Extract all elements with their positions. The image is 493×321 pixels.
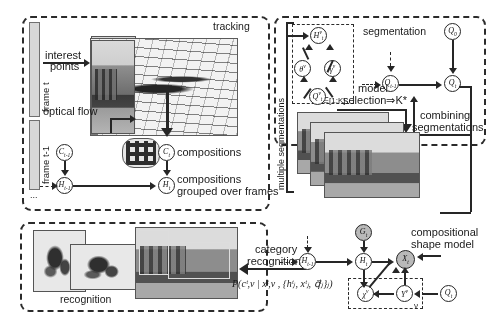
- combining-feedback-head: [410, 96, 418, 102]
- segmentation-to-recognition-v: [470, 134, 472, 212]
- node-G-t: Gt: [355, 224, 372, 241]
- edge-Qtop-Qt: [452, 40, 454, 69]
- edge-gamma-H-head: [326, 44, 334, 50]
- edge-Hprev-Ht-head: [150, 182, 156, 190]
- edge-theta-H-head: [305, 44, 313, 50]
- optical-flow-arrowhead: [130, 115, 136, 123]
- category-recognition-arrow: [248, 268, 306, 270]
- model-selection-line2: selection⇒K*: [343, 95, 407, 107]
- frame-tm1-label: frame t-1: [40, 146, 51, 184]
- combining-line2: segmentations: [412, 122, 484, 134]
- node-C-prev: Ct-1: [56, 144, 73, 161]
- node-theta-nu: θν: [294, 60, 311, 77]
- segmentation-image-1: [324, 132, 420, 198]
- edge-chi-Xt-head: [392, 267, 400, 273]
- recognition-formula: P(cᵗ,ν | xᵗ,ν , {hᵗⱼ, xᵗⱼ, q⃗ᵗⱼ}ⱼ): [232, 278, 333, 290]
- node-H-t-recognition: Ht: [355, 253, 372, 270]
- flow-to-compositions-line: [166, 90, 169, 132]
- module-recognition-label: recognition: [60, 293, 111, 305]
- edge-dots-into-Qprev-v: [390, 52, 391, 66]
- shape-model-line1: compositional: [411, 227, 478, 239]
- combining-feedback-right-v: [470, 86, 472, 134]
- module-segmentation-label: segmentation: [363, 25, 426, 37]
- interest-points-arrow: [43, 62, 85, 64]
- edge-tracking-to-segmentation: [286, 35, 304, 37]
- edge-Qprev-Qt-head: [436, 81, 442, 89]
- edge-Qtop-Qt-head: [449, 68, 457, 74]
- composition-patches: [122, 138, 160, 168]
- node-H-prev: Ht-1: [56, 177, 73, 194]
- recognition-bbox-2: [168, 242, 230, 279]
- plate-nu-recognition-index: ν: [414, 300, 418, 312]
- figure-canvas: tracking frame t frame t-1 ... interest …: [0, 0, 493, 321]
- node-Q-t-seg: Qt: [444, 75, 461, 92]
- edge-Cprev-Hprev-head: [61, 170, 69, 176]
- frame-tm1-bar: [29, 120, 40, 190]
- compositions-label: compositions: [177, 147, 241, 159]
- model-selection-line1: model: [358, 83, 388, 95]
- combining-line1: combining: [420, 110, 470, 122]
- frame-t-bar: [29, 22, 40, 117]
- edge-Hprev-Ht-rec-head: [347, 258, 353, 266]
- edge-Hprev-Ht: [73, 185, 151, 187]
- edge-Qt-Ynu: [422, 293, 438, 295]
- edge-Ht-chi-head: [360, 282, 368, 288]
- combining-feedback-v: [413, 100, 415, 135]
- combining-feedback-h: [413, 134, 471, 136]
- node-Q-top: Q0: [444, 23, 461, 40]
- edge-dots-into-Hprev-head: [52, 182, 58, 190]
- edge-Qt-Ynu-head: [414, 290, 420, 298]
- edge-tracking-to-segmentation-head: [303, 32, 309, 40]
- grouped-label-line2: grouped over frames: [177, 186, 279, 198]
- category-recognition-arrowhead: [239, 263, 248, 275]
- shape-model-arrow: [423, 255, 441, 257]
- flow-to-compositions-arrowhead: [161, 128, 173, 137]
- node-H-t: Ht: [158, 177, 175, 194]
- edge-Q-gamma-head: [329, 76, 337, 82]
- grouped-label-line1: compositions: [177, 174, 241, 186]
- node-H-t-nu: Hνt: [310, 27, 327, 44]
- recognition-shape-prototype-2: [70, 244, 139, 290]
- node-Q-t-recognition: Qt: [440, 285, 457, 302]
- edge-Ynu-chi-head: [373, 290, 379, 298]
- combining-feedback-top-h: [459, 86, 471, 88]
- optical-flow-riser: [110, 120, 112, 133]
- optical-flow-label: optical flow: [43, 106, 97, 118]
- node-H-prev-recognition: Ht-1: [299, 253, 316, 270]
- model-selection-route-h: [337, 109, 407, 111]
- edge-Gt-Ht-head: [360, 247, 368, 253]
- multiple-seg-bracket-bottom: [286, 191, 294, 193]
- segmentation-to-recognition-h: [440, 212, 471, 214]
- shape-model-line2: shape model: [411, 239, 474, 251]
- frame-ellipsis: ...: [30, 190, 38, 202]
- node-C-t: Ct: [158, 144, 175, 161]
- optical-flow-stem: [110, 118, 132, 120]
- recognition-bbox-1: [139, 230, 169, 275]
- frame-photo-overlay: [91, 40, 135, 134]
- edge-Q-theta-head: [300, 76, 308, 82]
- edge-dots-above-Hprev-rec-head: [304, 247, 312, 253]
- node-Q-t-nu: Qνt: [309, 88, 326, 105]
- edge-Qprev-Qt: [399, 84, 437, 86]
- edge-Ynu-Xt-head: [401, 267, 409, 273]
- multiple-seg-bracket-spine: [286, 22, 288, 192]
- edge-dots-into-Hprev-rec-head: [292, 258, 298, 266]
- module-tracking-label: tracking: [213, 20, 250, 32]
- interest-points-arrowhead: [84, 59, 90, 67]
- category-recognition-line1: category: [255, 244, 297, 256]
- edge-Hprev-Ht-rec: [316, 261, 348, 263]
- edge-Ct-Ht-head: [163, 170, 171, 176]
- edge-Ynu-Xt: [404, 271, 406, 285]
- edge-dots-into-Qprev-head: [387, 66, 395, 72]
